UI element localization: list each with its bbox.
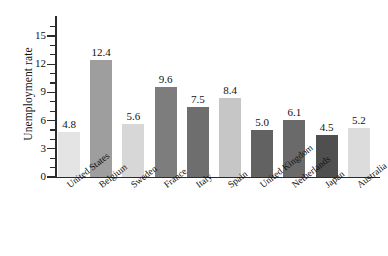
bar bbox=[251, 130, 273, 177]
bar-value-label: 9.6 bbox=[146, 74, 186, 85]
bar bbox=[219, 98, 241, 177]
bar bbox=[58, 132, 80, 177]
bar-value-label: 5.6 bbox=[113, 111, 153, 122]
bar-value-label: 5.2 bbox=[339, 115, 379, 126]
bar-value-label: 4.8 bbox=[49, 119, 89, 130]
bar-value-label: 5.0 bbox=[242, 117, 282, 128]
bar bbox=[187, 107, 209, 178]
bar bbox=[155, 87, 177, 177]
bar-value-label: 6.1 bbox=[274, 107, 314, 118]
bar-value-label: 12.4 bbox=[81, 47, 121, 58]
bar bbox=[348, 128, 370, 177]
bar-value-label: 8.4 bbox=[210, 85, 250, 96]
